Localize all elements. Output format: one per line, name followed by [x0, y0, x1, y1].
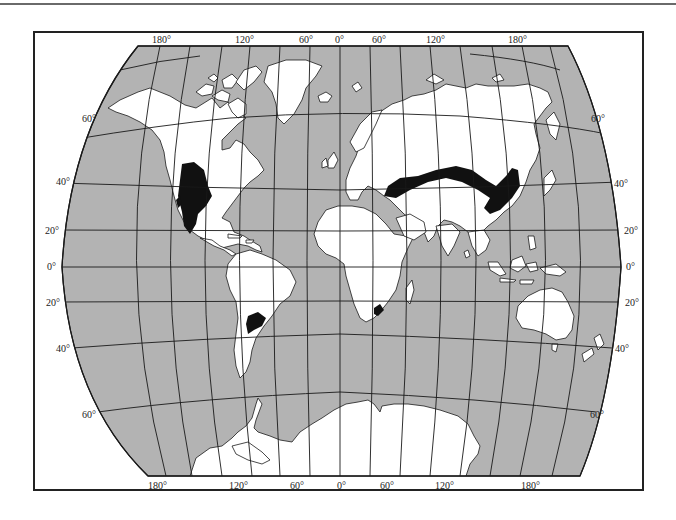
- bottom-lon-label-180e: 180°: [521, 481, 540, 491]
- top-lon-label-0: 0°: [335, 35, 344, 45]
- bottom-lon-label-180w: 180°: [148, 481, 167, 491]
- top-lon-label-120e: 120°: [426, 35, 445, 45]
- bottom-lon-label-60w: 60°: [290, 481, 304, 491]
- bottom-lon-label-120w: 120°: [229, 481, 248, 491]
- right-lat-label-0: 0°: [626, 262, 635, 272]
- left-lat-label-40s: 40°: [56, 344, 70, 354]
- world-map: [0, 0, 676, 520]
- bottom-lon-label-0: 0°: [337, 481, 346, 491]
- top-lon-label-180e: 180°: [508, 35, 527, 45]
- right-lat-label-60n: 60°: [591, 114, 605, 124]
- right-lat-label-40n: 40°: [614, 179, 628, 189]
- left-lat-label-0: 0°: [47, 262, 56, 272]
- top-lon-label-180w: 180°: [152, 35, 171, 45]
- bottom-lon-label-120e: 120°: [435, 481, 454, 491]
- left-lat-label-20s: 20°: [46, 298, 60, 308]
- left-lat-label-60s: 60°: [82, 410, 96, 420]
- right-lat-label-40s: 40°: [615, 344, 629, 354]
- right-lat-label-60s: 60°: [590, 410, 604, 420]
- top-lon-label-60e: 60°: [372, 35, 386, 45]
- top-lon-label-60w: 60°: [299, 35, 313, 45]
- left-lat-label-60n: 60°: [82, 114, 96, 124]
- top-lon-label-120w: 120°: [235, 35, 254, 45]
- bottom-lon-label-60e: 60°: [380, 481, 394, 491]
- right-lat-label-20s: 20°: [625, 298, 639, 308]
- left-lat-label-40n: 40°: [56, 177, 70, 187]
- left-lat-label-20n: 20°: [45, 226, 59, 236]
- right-lat-label-20n: 20°: [624, 226, 638, 236]
